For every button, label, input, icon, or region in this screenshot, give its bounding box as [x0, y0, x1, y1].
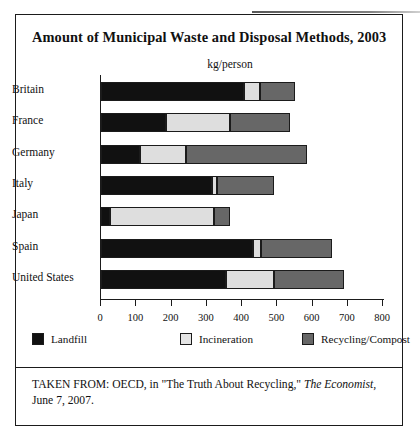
bar-row: Japan [101, 207, 230, 226]
legend-swatch-incineration-icon [180, 333, 192, 345]
category-label: United States [12, 271, 92, 283]
category-label: Germany [12, 146, 92, 158]
category-label: Japan [12, 208, 92, 220]
bar-chart-plot-area: 0100200300400500600700800BritainFranceGe… [100, 75, 384, 300]
figure-title: Amount of Municipal Waste and Disposal M… [32, 29, 386, 46]
bar-segment-landfill [101, 239, 253, 258]
bar-segment-landfill [101, 270, 226, 289]
bar-segment-landfill [101, 113, 166, 132]
bar-segment-recycling [274, 270, 345, 289]
bar-segment-recycling [217, 176, 273, 195]
category-label: France [12, 114, 92, 126]
bar-segment-incineration [253, 239, 262, 258]
bar-row: United States [101, 270, 344, 289]
x-axis-tick [206, 300, 207, 306]
bar-row: Spain [101, 239, 332, 258]
x-axis-tick-label: 100 [127, 312, 143, 323]
x-axis-tick-label: 200 [163, 312, 179, 323]
page-scan-edge [252, 11, 420, 13]
bar-row: France [101, 113, 290, 132]
x-axis-tick-label: 500 [268, 312, 284, 323]
x-axis-tick [382, 300, 383, 306]
bar-segment-recycling [230, 113, 290, 132]
legend-swatch-landfill-icon [32, 333, 44, 345]
bar-segment-landfill [101, 145, 140, 164]
caption-text-lead: TAKEN FROM: OECD, in "The Truth About Re… [32, 378, 304, 391]
bar-segment-landfill [101, 82, 244, 101]
bar-segment-incineration [110, 207, 214, 226]
x-axis-tick [312, 300, 313, 306]
bar-segment-recycling [261, 239, 332, 258]
x-axis-tick-label: 400 [233, 312, 249, 323]
legend-label: Incineration [199, 333, 253, 345]
x-axis-tick-label: 800 [374, 312, 390, 323]
bar-row: Germany [101, 145, 307, 164]
x-axis-tick [135, 300, 136, 306]
bar-segment-incineration [244, 82, 260, 101]
x-axis-tick [171, 300, 172, 306]
legend-swatch-recycling-icon [302, 333, 314, 345]
bar-segment-recycling [214, 207, 230, 226]
bar-row: Britain [101, 82, 295, 101]
figure-caption: TAKEN FROM: OECD, in "The Truth About Re… [32, 377, 384, 408]
category-label: Britain [12, 83, 92, 95]
legend-item-recycling[interactable]: Recycling/Compost [302, 333, 410, 345]
x-axis-tick [347, 300, 348, 306]
x-axis-tick-label: 600 [304, 312, 320, 323]
bar-segment-incineration [166, 113, 229, 132]
x-axis-tick-label: 0 [97, 312, 102, 323]
bar-segment-recycling [186, 145, 308, 164]
legend-item-landfill[interactable]: Landfill [32, 333, 87, 345]
x-axis-tick-label: 700 [339, 312, 355, 323]
bar-segment-landfill [101, 176, 212, 195]
caption-text-tail: June 7, 2007. [32, 394, 94, 407]
figure-container: Amount of Municipal Waste and Disposal M… [15, 14, 403, 426]
legend-label: Recycling/Compost [321, 333, 410, 345]
bar-segment-recycling [260, 82, 295, 101]
bar-row: Italy [101, 176, 274, 195]
x-axis-tick [100, 300, 101, 306]
x-axis-tick [276, 300, 277, 306]
caption-divider [16, 367, 402, 368]
caption-source-name: The Economist, [304, 378, 376, 391]
category-label: Italy [12, 177, 92, 189]
bar-segment-incineration [226, 270, 274, 289]
bar-segment-incineration [140, 145, 186, 164]
units-label: kg/person [16, 58, 402, 70]
x-axis-tick-label: 300 [198, 312, 214, 323]
bar-segment-landfill [101, 207, 110, 226]
chart-legend: LandfillIncinerationRecycling/Compost [32, 333, 388, 355]
x-axis-tick [241, 300, 242, 306]
category-label: Spain [12, 240, 92, 252]
legend-label: Landfill [51, 333, 87, 345]
legend-item-incineration[interactable]: Incineration [180, 333, 253, 345]
